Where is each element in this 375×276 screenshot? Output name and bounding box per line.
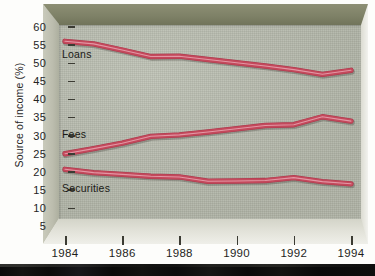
x-tick-mark <box>179 236 181 245</box>
x-tick-label: 1984 <box>52 247 79 259</box>
y-tick-label: 35 <box>33 111 46 123</box>
x-tick-label: 1992 <box>280 247 307 259</box>
series-label-securities: Securities <box>62 182 110 194</box>
y-tick-mark <box>68 99 75 101</box>
frame-right-bevel <box>361 4 368 244</box>
x-tick-label: 1994 <box>338 247 365 259</box>
y-tick-mark <box>68 208 75 210</box>
y-tick-label: 15 <box>33 184 46 196</box>
x-tick-label: 1986 <box>109 247 136 259</box>
x-tick-label: 1988 <box>166 247 193 259</box>
x-tick-label: 1990 <box>223 247 250 259</box>
y-tick-label: 30 <box>33 130 46 142</box>
y-tick-mark <box>68 153 75 155</box>
y-tick-label: 10 <box>33 202 46 214</box>
y-tick-mark <box>68 63 75 65</box>
y-tick-mark <box>68 26 75 28</box>
series-line-shadow <box>66 118 352 155</box>
y-tick-label: 45 <box>33 75 46 87</box>
y-tick-label: 55 <box>33 39 46 51</box>
series-label-loans: Loans <box>62 48 92 60</box>
x-tick-mark <box>237 236 239 245</box>
y-axis: 60555045403530252015105 <box>20 4 46 244</box>
y-tick-mark <box>68 117 75 119</box>
y-tick-label: 20 <box>33 166 46 178</box>
x-tick-mark <box>351 236 353 245</box>
chart-frame <box>43 4 368 244</box>
y-tick-label: 40 <box>33 93 46 105</box>
chart-figure: Source of income (%) 6055504540353025201… <box>0 0 375 276</box>
series-label-fees: Fees <box>62 128 86 140</box>
y-tick-label: 25 <box>33 148 46 160</box>
y-tick-mark <box>68 171 75 173</box>
y-tick-label: 60 <box>33 21 46 33</box>
x-tick-mark <box>122 236 124 245</box>
x-tick-mark <box>294 236 296 245</box>
y-tick-mark <box>68 81 75 83</box>
y-tick-mark <box>68 44 75 46</box>
y-tick-label: 5 <box>40 220 46 232</box>
frame-top-bevel <box>43 4 368 26</box>
y-tick-label: 50 <box>33 57 46 69</box>
x-tick-mark <box>65 236 67 245</box>
scan-artifact-band <box>0 264 375 276</box>
